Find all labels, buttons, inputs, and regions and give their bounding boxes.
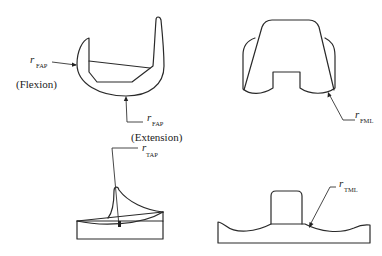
tibial-coronal-base	[218, 222, 370, 243]
r-tml-subscript: TML	[344, 186, 358, 193]
extension-leader-line	[126, 98, 143, 122]
tibial-sagittal-chord	[77, 212, 163, 221]
femoral-sagittal-outline	[77, 17, 164, 96]
extension-caption: (Extension)	[131, 131, 183, 144]
femoral-coronal-body	[244, 20, 334, 90]
r-tap-subscript: TAP	[146, 151, 158, 158]
femoral-coronal-panel: r FML	[243, 20, 373, 124]
r-fap-flexion-symbol: r	[30, 53, 35, 65]
flexion-arrowhead	[72, 63, 77, 67]
tibial-coronal-post	[271, 191, 302, 224]
knee-implant-diagram: r FAP (Flexion) r FAP (Extension) r FML …	[0, 0, 382, 256]
femoral-sagittal-panel: r FAP (Flexion) r FAP (Extension)	[16, 17, 183, 144]
tibial-coronal-panel: r TML	[218, 177, 370, 243]
flexion-caption: (Flexion)	[16, 78, 57, 91]
tap-arrow-marker	[118, 221, 121, 227]
tml-leader-line	[310, 187, 336, 225]
r-fml-subscript: FML	[360, 117, 373, 124]
r-fap-extension-subscript: FAP	[152, 120, 164, 127]
femoral-chord-line	[89, 61, 150, 68]
extension-arrowhead	[124, 96, 128, 101]
tibial-sagittal-panel: r TAP	[77, 141, 163, 239]
r-fap-flexion-subscript: FAP	[36, 62, 48, 69]
fml-leader-line	[329, 94, 355, 120]
tap-leader-line	[112, 148, 138, 226]
